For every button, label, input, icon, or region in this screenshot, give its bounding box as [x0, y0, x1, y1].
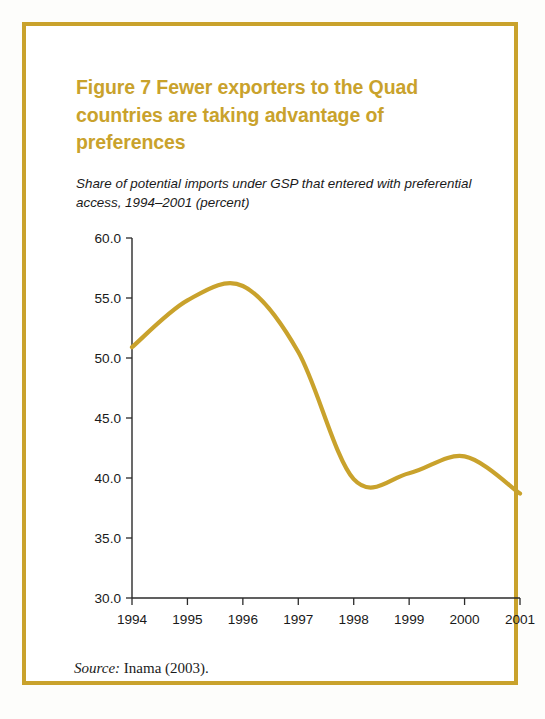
x-tick-label: 1996: [228, 612, 258, 627]
y-tick-label: 30.0: [95, 591, 122, 606]
y-tick-label: 40.0: [95, 471, 122, 486]
y-tick-label: 35.0: [95, 531, 122, 546]
x-tick-label: 1998: [339, 612, 369, 627]
y-tick-label: 55.0: [95, 291, 122, 306]
figure-page: Figure 7 Fewer exporters to the Quad cou…: [0, 0, 545, 719]
y-tick-label: 45.0: [95, 411, 122, 426]
y-tick-label: 60.0: [95, 231, 122, 246]
data-series-line: [132, 283, 520, 493]
x-tick-label: 1994: [117, 612, 148, 627]
source-citation: Inama (2003).: [120, 660, 209, 676]
figure-inner: Figure 7 Fewer exporters to the Quad cou…: [52, 52, 540, 707]
x-tick-label: 1995: [172, 612, 202, 627]
source-note: Source: Inama (2003).: [74, 660, 209, 677]
y-axis-ticks: 60.055.050.045.040.035.030.0: [95, 231, 132, 606]
x-tick-label: 2000: [449, 612, 480, 627]
chart-plot-area: 60.055.050.045.040.035.030.0 19941995199…: [52, 52, 540, 707]
x-tick-label: 1997: [283, 612, 313, 627]
x-tick-label: 1999: [394, 612, 424, 627]
line-chart: 60.055.050.045.040.035.030.0 19941995199…: [52, 52, 540, 707]
figure-border: Figure 7 Fewer exporters to the Quad cou…: [22, 22, 518, 685]
x-axis-ticks: 19941995199619971998199920002001: [117, 598, 535, 627]
source-label: Source:: [74, 660, 120, 676]
x-tick-label: 2001: [505, 612, 535, 627]
y-tick-label: 50.0: [95, 351, 122, 366]
